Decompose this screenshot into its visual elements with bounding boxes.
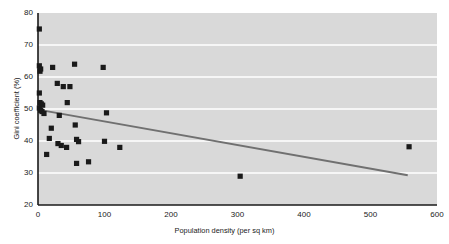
data-point (72, 62, 77, 67)
data-point (76, 139, 81, 144)
x-axis-title: Population density (per sq km) (0, 226, 449, 235)
y-tick-label-40: 40 (7, 136, 33, 145)
data-point (55, 81, 60, 86)
chart-figure: Population density (per sq km) Gini coef… (0, 0, 449, 244)
data-point (57, 113, 62, 118)
data-point (59, 143, 64, 148)
x-tick-label-300: 300 (223, 210, 253, 219)
x-tick-label-0: 0 (23, 210, 53, 219)
data-point (61, 84, 66, 89)
x-tick-label-400: 400 (289, 210, 319, 219)
data-point (86, 159, 91, 164)
x-tick-label-200: 200 (156, 210, 186, 219)
x-tick-label-500: 500 (356, 210, 386, 219)
data-point (238, 174, 243, 179)
data-point (44, 152, 49, 157)
data-point (117, 145, 122, 150)
x-tick-label-100: 100 (90, 210, 120, 219)
y-tick-label-80: 80 (7, 8, 33, 17)
data-point (41, 111, 46, 116)
data-point (50, 65, 55, 70)
data-point (406, 144, 411, 149)
x-tick-label-600: 600 (422, 210, 449, 219)
data-point (101, 65, 106, 70)
data-point (67, 84, 72, 89)
y-tick-label-50: 50 (7, 104, 33, 113)
data-point (74, 161, 79, 166)
data-point (102, 139, 107, 144)
y-tick-label-20: 20 (7, 200, 33, 209)
data-point (49, 126, 54, 131)
data-point (65, 100, 70, 105)
scatter-plot (0, 0, 449, 244)
y-tick-label-30: 30 (7, 168, 33, 177)
data-point (47, 136, 52, 141)
data-point (104, 110, 109, 115)
y-tick-label-60: 60 (7, 72, 33, 81)
y-tick-label-70: 70 (7, 40, 33, 49)
data-point (64, 145, 69, 150)
data-point (73, 122, 78, 127)
